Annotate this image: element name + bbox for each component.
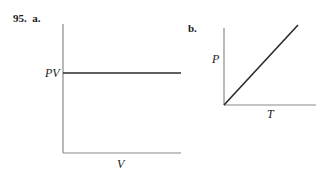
- charts-svg: [0, 0, 329, 175]
- chart-b-y-label: P: [212, 52, 219, 67]
- chart-a-x-label: V: [117, 157, 124, 172]
- chart-a-y-label: PV: [45, 66, 60, 81]
- chart-b: [224, 25, 316, 105]
- chart-a: [63, 24, 181, 153]
- chart-b-x-label: T: [267, 107, 274, 122]
- chart-b-pt-line: [224, 25, 298, 105]
